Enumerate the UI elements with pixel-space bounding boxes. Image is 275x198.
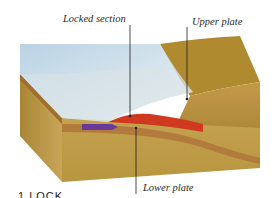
subduction-diagram: Locked section Upper plate Lower plate 1… [0, 0, 275, 198]
plate-motion-arrow-icon [82, 124, 118, 130]
block-diagram-illustration [0, 0, 275, 198]
label-lower-plate: Lower plate [143, 182, 193, 193]
label-locked-section: Locked section [63, 13, 126, 24]
label-upper-plate: Upper plate [192, 16, 242, 27]
figure-caption: 1 LOCK [18, 190, 63, 198]
